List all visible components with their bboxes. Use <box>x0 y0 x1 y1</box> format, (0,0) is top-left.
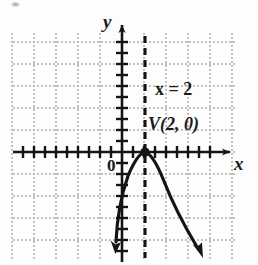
axis-of-symmetry-label: x = 2 <box>155 79 192 99</box>
parabola-graph-figure: y x 0 x = 2 V(2, 0) <box>0 0 258 265</box>
y-axis-label: y <box>101 11 112 32</box>
parabola-curve <box>111 152 203 258</box>
vertex-label: V(2, 0) <box>148 114 199 135</box>
axes <box>13 25 230 262</box>
vertex-point-marker <box>140 147 149 156</box>
parabola-path <box>116 152 197 246</box>
origin-label: 0 <box>107 156 116 175</box>
x-axis-label: x <box>233 153 244 174</box>
